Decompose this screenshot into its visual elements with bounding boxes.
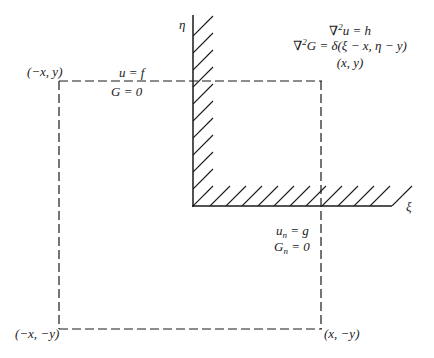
point-label-x-y: (x, y): [320, 56, 380, 70]
bc-u-equals-f: u = f: [119, 66, 144, 80]
bc-g-equals-0: G = 0: [111, 85, 142, 99]
xi-wall-hatching: [210, 186, 412, 206]
corner-label-bottom-right: (x, −y): [324, 327, 359, 341]
equation-laplace-g: ∇2G = δ(ξ − x, η − y): [270, 39, 430, 53]
eta-axis-label: η: [179, 18, 185, 32]
bc-un-equals-g: un = g: [276, 224, 309, 238]
image-rectangle: [59, 81, 322, 329]
diagram-canvas: [0, 0, 434, 358]
bc-gn-equals-0: Gn = 0: [274, 240, 310, 254]
equation-laplace-u: ∇2u = h: [300, 24, 400, 38]
corner-label-bottom-left: (−x, −y): [15, 327, 59, 341]
corner-label-top-left: (−x, y): [27, 65, 62, 79]
eta-wall-hatching: [193, 16, 213, 206]
xi-axis-label: ξ: [406, 200, 412, 214]
